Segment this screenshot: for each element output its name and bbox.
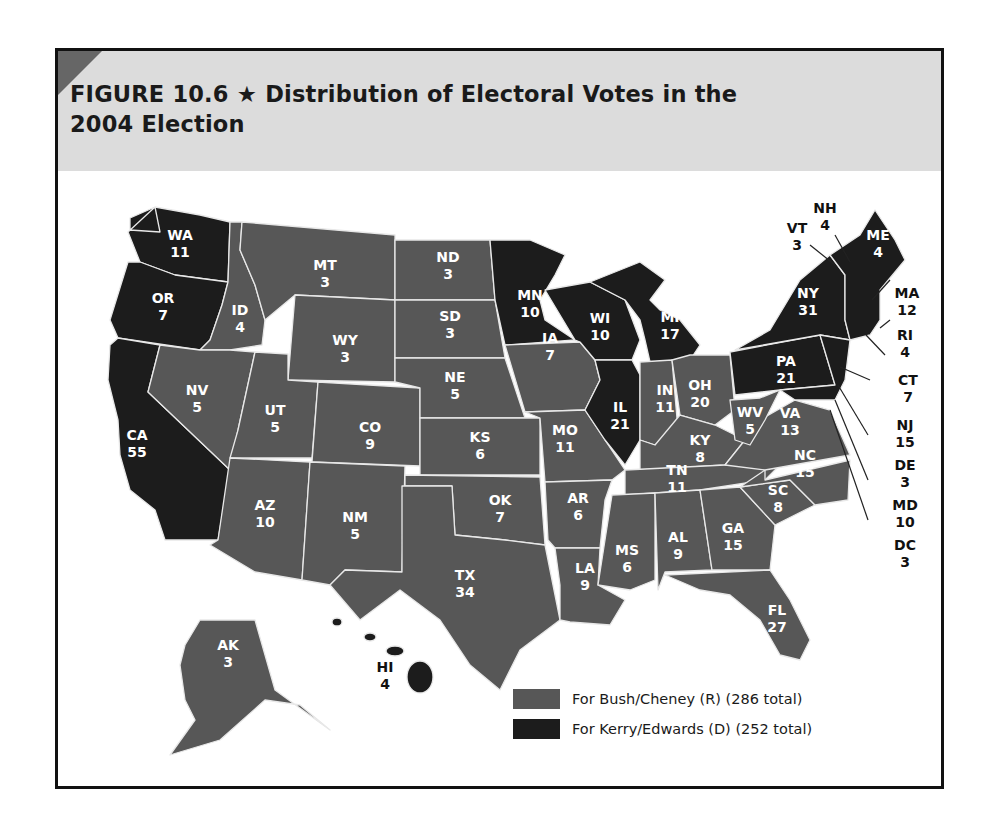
state-NY <box>735 255 850 350</box>
state-FL <box>665 570 810 660</box>
state-HI-kauai <box>332 618 342 626</box>
label-CT: CT7 <box>898 372 918 405</box>
label-MD: MD10 <box>892 497 918 530</box>
label-GA: GA15 <box>722 520 744 553</box>
label-VA: VA13 <box>780 405 801 438</box>
us-electoral-map: WA11OR7CA55ID4NV5MT3WY3UT5AZ10CO9NM5ND3S… <box>0 0 1000 837</box>
label-HI: HI4 <box>377 659 394 692</box>
label-MI: MI17 <box>660 309 679 342</box>
label-IN: IN11 <box>655 382 674 415</box>
legend: For Bush/Cheney (R) (286 total) For Kerr… <box>513 684 812 744</box>
label-CA: CA55 <box>126 427 147 460</box>
label-RI: RI4 <box>897 327 913 360</box>
label-DE: DE3 <box>894 457 915 490</box>
legend-label-democrat: For Kerry/Edwards (D) (252 total) <box>572 721 812 737</box>
label-IL: IL21 <box>610 399 629 432</box>
republican-swatch <box>513 689 560 709</box>
label-NY: NY31 <box>797 285 820 318</box>
label-NC: NC15 <box>794 447 816 480</box>
label-NJ: NJ15 <box>895 417 914 450</box>
label-NH: NH4 <box>813 200 836 233</box>
label-MA: MA12 <box>895 285 920 318</box>
label-DC: DC3 <box>894 537 916 570</box>
state-AK <box>170 620 330 755</box>
legend-item-republican: For Bush/Cheney (R) (286 total) <box>513 684 812 714</box>
state-HI-oahu <box>364 633 376 641</box>
label-WA: WA11 <box>167 227 193 260</box>
state-HI-big <box>407 661 433 693</box>
label-MN: MN10 <box>517 287 543 320</box>
label-FL: FL27 <box>767 602 786 635</box>
label-OH: OH20 <box>688 377 712 410</box>
democrat-swatch <box>513 719 560 739</box>
label-VT: VT3 <box>787 220 808 253</box>
legend-item-democrat: For Kerry/Edwards (D) (252 total) <box>513 714 812 744</box>
label-WI: WI10 <box>590 310 611 343</box>
legend-label-republican: For Bush/Cheney (R) (286 total) <box>572 691 802 707</box>
state-HI-maui <box>386 646 404 656</box>
label-PA: PA21 <box>776 353 796 386</box>
label-TX: TX34 <box>455 567 476 600</box>
label-TN: TN11 <box>666 462 687 495</box>
label-MO: MO11 <box>552 422 578 455</box>
label-AZ: AZ10 <box>255 497 276 530</box>
